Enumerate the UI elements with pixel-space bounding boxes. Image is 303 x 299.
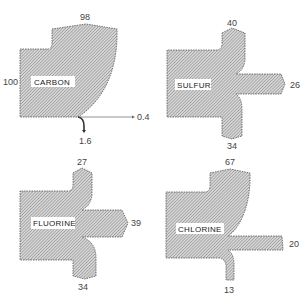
- fluorine-panel: FLUORINE 27 39 34: [20, 157, 141, 292]
- fluorine-input-top: 27: [77, 157, 87, 167]
- sulfur-panel: SULFUR 40 26 34: [167, 18, 300, 151]
- sulfur-output-right: 26: [290, 80, 300, 90]
- arrowhead-icon: [132, 116, 135, 119]
- chlorine-panel: CHLORINE 67 20 13: [166, 157, 299, 295]
- carbon-input-top: 98: [80, 12, 90, 22]
- carbon-panel: CARBON 98 100 0.4 1.6: [3, 12, 150, 146]
- carbon-flow-shape: [20, 24, 117, 117]
- chlorine-input-top: 67: [225, 157, 235, 167]
- fluorine-label: FLUORINE: [33, 219, 76, 228]
- flow-diagram: CARBON 98 100 0.4 1.6 SULFUR 40 26 34 FL…: [0, 0, 303, 299]
- carbon-output-bottom-arrow: [78, 117, 84, 130]
- sulfur-output-bottom: 34: [227, 141, 237, 151]
- carbon-output-bottom: 1.6: [79, 136, 92, 146]
- sulfur-input-top: 40: [227, 18, 237, 28]
- arrowhead-icon: [82, 130, 86, 133]
- fluorine-output-right: 39: [131, 218, 141, 228]
- fluorine-output-bottom: 34: [78, 282, 88, 292]
- chlorine-output-right: 20: [289, 239, 299, 249]
- chlorine-output-bottom: 13: [224, 285, 234, 295]
- carbon-output-right: 0.4: [137, 112, 150, 122]
- carbon-label: CARBON: [34, 78, 70, 87]
- sulfur-label: SULFUR: [177, 81, 211, 90]
- carbon-input-left: 100: [3, 77, 18, 87]
- chlorine-label: CHLORINE: [178, 225, 222, 234]
